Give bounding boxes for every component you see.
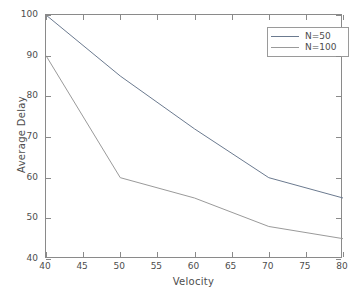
x-tick-top-75 <box>306 15 307 20</box>
y-tick-label-90: 90 <box>0 50 38 60</box>
legend-label-n50: N=50 <box>305 31 331 42</box>
y-tick-label-100: 100 <box>0 9 38 19</box>
x-tick-top-60 <box>195 15 196 20</box>
x-tick-label-60: 60 <box>188 261 199 271</box>
y-tick-50 <box>46 218 51 219</box>
y-tick-right-40 <box>336 259 341 260</box>
x-tick-60 <box>195 252 196 257</box>
x-tick-80 <box>343 252 344 257</box>
x-tick-label-70: 70 <box>262 261 273 271</box>
x-tick-label-45: 45 <box>76 261 87 271</box>
y-tick-label-50: 50 <box>0 212 38 222</box>
x-tick-top-55 <box>157 15 158 20</box>
x-tick-top-80 <box>343 15 344 20</box>
x-tick-55 <box>157 252 158 257</box>
x-tick-top-65 <box>232 15 233 20</box>
x-tick-40 <box>46 252 47 257</box>
x-tick-label-55: 55 <box>151 261 162 271</box>
legend-swatch-n100 <box>271 47 299 48</box>
x-tick-45 <box>83 252 84 257</box>
x-tick-75 <box>306 252 307 257</box>
y-tick-100 <box>46 15 51 16</box>
x-tick-label-65: 65 <box>225 261 236 271</box>
legend-entry-n50: N=50 <box>271 31 344 42</box>
y-tick-right-100 <box>336 15 341 16</box>
x-tick-label-40: 40 <box>39 261 50 271</box>
y-tick-right-80 <box>336 96 341 97</box>
x-axis-title: Velocity <box>45 276 342 287</box>
chart-legend: N=50 N=100 <box>267 27 349 57</box>
y-tick-80 <box>46 96 51 97</box>
y-tick-40 <box>46 259 51 260</box>
x-tick-65 <box>232 252 233 257</box>
x-tick-label-80: 80 <box>336 261 347 271</box>
legend-entry-n100: N=100 <box>271 42 344 53</box>
y-tick-60 <box>46 178 51 179</box>
series-line-n100 <box>46 56 343 239</box>
x-tick-50 <box>120 252 121 257</box>
y-tick-right-90 <box>336 56 341 57</box>
y-tick-right-60 <box>336 178 341 179</box>
x-tick-top-50 <box>120 15 121 20</box>
y-axis-title: Average Delay <box>16 65 27 205</box>
y-tick-right-70 <box>336 137 341 138</box>
y-tick-label-40: 40 <box>0 253 38 263</box>
x-tick-label-75: 75 <box>299 261 310 271</box>
y-tick-90 <box>46 56 51 57</box>
legend-swatch-n50 <box>271 36 299 37</box>
chart-figure: N=50 N=100 40455055606570758040506070809… <box>0 0 357 304</box>
x-tick-label-50: 50 <box>114 261 125 271</box>
x-tick-top-70 <box>269 15 270 20</box>
plot-area: N=50 N=100 <box>45 14 342 258</box>
y-tick-70 <box>46 137 51 138</box>
y-tick-right-50 <box>336 218 341 219</box>
x-tick-70 <box>269 252 270 257</box>
legend-label-n100: N=100 <box>305 42 336 53</box>
x-tick-top-45 <box>83 15 84 20</box>
